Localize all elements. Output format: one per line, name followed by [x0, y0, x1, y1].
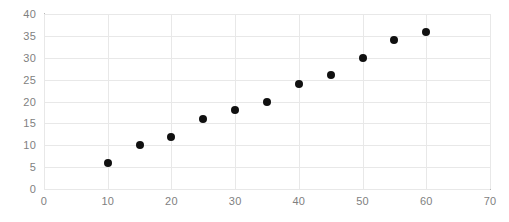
gridline-horizontal [44, 14, 490, 15]
x-axis-tick-label: 40 [279, 196, 319, 207]
gridline-vertical [490, 14, 491, 189]
data-point[interactable] [295, 80, 303, 88]
gridline-vertical [363, 14, 364, 189]
data-point[interactable] [359, 54, 367, 62]
plot-area [44, 14, 490, 189]
data-point[interactable] [327, 71, 335, 79]
y-axis-tick-label: 5 [8, 162, 36, 173]
data-point[interactable] [199, 115, 207, 123]
x-axis-tick-label: 30 [215, 196, 255, 207]
gridline-vertical [235, 14, 236, 189]
data-point[interactable] [231, 106, 239, 114]
gridline-vertical [171, 14, 172, 189]
scatter-chart: 0510152025303540 010203040506070 [0, 0, 509, 222]
data-point[interactable] [263, 98, 271, 106]
x-axis-tick-label: 70 [470, 196, 509, 207]
data-point[interactable] [422, 28, 430, 36]
gridline-horizontal [44, 80, 490, 81]
y-axis-tick-label: 15 [8, 118, 36, 129]
gridline-horizontal [44, 58, 490, 59]
gridline-vertical [44, 14, 45, 189]
x-axis-tick-label: 60 [406, 196, 446, 207]
gridline-horizontal [44, 167, 490, 168]
data-point[interactable] [104, 159, 112, 167]
y-axis-tick-label: 40 [8, 9, 36, 20]
data-point[interactable] [390, 36, 398, 44]
gridline-vertical [299, 14, 300, 189]
x-axis-tick-label: 20 [151, 196, 191, 207]
gridline-horizontal [44, 189, 490, 190]
y-axis-tick-label: 35 [8, 30, 36, 41]
data-point[interactable] [136, 141, 144, 149]
x-axis-tick-label: 0 [24, 196, 64, 207]
gridline-horizontal [44, 36, 490, 37]
y-axis-tick-label: 10 [8, 140, 36, 151]
y-axis-tick-label: 30 [8, 52, 36, 63]
y-axis-tick-label: 20 [8, 96, 36, 107]
x-axis-tick-label: 10 [88, 196, 128, 207]
gridline-horizontal [44, 145, 490, 146]
data-point[interactable] [167, 133, 175, 141]
x-axis-tick-label: 50 [343, 196, 383, 207]
gridline-horizontal [44, 123, 490, 124]
y-axis-tick-label: 0 [8, 184, 36, 195]
y-axis-tick-label: 25 [8, 74, 36, 85]
gridline-vertical [426, 14, 427, 189]
